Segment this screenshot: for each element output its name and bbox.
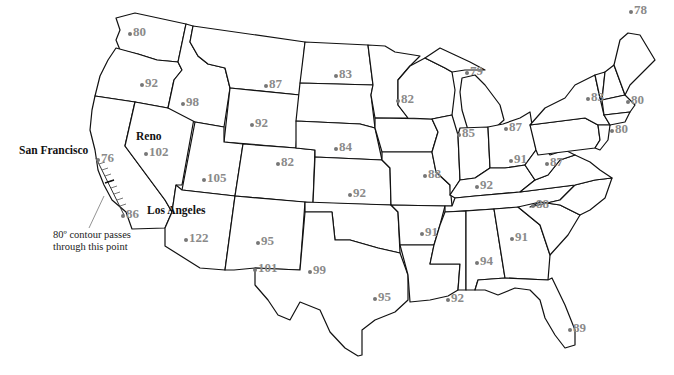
temperature-label-michigan: 87 — [504, 120, 522, 133]
location-dot-icon — [465, 71, 469, 75]
location-dot-icon — [264, 84, 268, 88]
location-dot-icon — [510, 237, 514, 241]
temperature-value: 79 — [470, 63, 483, 78]
temperature-label-san-francisco: 76 — [96, 151, 114, 164]
temperature-value: 82 — [281, 154, 294, 169]
state-colorado — [235, 144, 315, 203]
temperature-value: 82 — [401, 91, 414, 106]
location-dot-icon — [626, 100, 630, 104]
temperature-label-idaho: 98 — [181, 95, 199, 108]
state-iowa — [375, 118, 438, 152]
location-dot-icon — [250, 123, 254, 127]
temperature-value: 91 — [514, 151, 527, 166]
location-dot-icon — [610, 129, 614, 133]
temperature-label-texas: 99 — [308, 263, 326, 276]
state-florida — [475, 278, 575, 348]
temperature-value: 80 — [615, 121, 628, 136]
temperature-value: 92 — [480, 177, 493, 192]
temperature-label-michigan-upper: 79 — [465, 64, 483, 77]
temperature-value: 92 — [451, 290, 464, 305]
location-dot-icon — [396, 99, 400, 103]
temperature-label-north-dakota: 83 — [334, 67, 352, 80]
location-dot-icon — [629, 10, 633, 14]
temperature-value: 88 — [428, 166, 441, 181]
location-dot-icon — [140, 83, 144, 87]
temperature-value: 80 — [631, 92, 644, 107]
temperature-label-nebraska: 84 — [334, 140, 352, 153]
temperature-value: 85 — [462, 125, 475, 140]
city-label-los-angeles: Los Angeles — [147, 205, 205, 217]
temperature-label-new-orleans: 92 — [446, 291, 464, 304]
location-dot-icon — [253, 268, 257, 272]
annotation-line-1: 80º contour passes — [53, 229, 131, 241]
location-dot-icon — [334, 147, 338, 151]
state-michigan-lower — [460, 75, 504, 130]
location-dot-icon — [128, 32, 132, 36]
annotation-line-2: through this point — [53, 241, 131, 253]
temperature-value: 88 — [536, 196, 549, 211]
temperature-label-massachusetts: 80 — [626, 93, 644, 106]
location-dot-icon — [144, 152, 148, 156]
temperature-label-washington: 80 — [128, 25, 146, 38]
temperature-value: 95 — [261, 233, 274, 248]
temperature-value: 86 — [126, 206, 139, 221]
temperature-label-alabama: 94 — [475, 254, 493, 267]
temperature-value: 87 — [550, 154, 563, 169]
temperature-label-kentucky: 92 — [475, 178, 493, 191]
temperature-value: 105 — [207, 170, 227, 185]
location-dot-icon — [373, 297, 377, 301]
temperature-label-new-york-city: 80 — [610, 122, 628, 135]
temperature-value: 80 — [133, 24, 146, 39]
location-dot-icon — [509, 159, 513, 163]
city-label-san-francisco: San Francisco — [19, 145, 88, 157]
temperature-value: 101 — [258, 260, 278, 275]
temperature-label-new-york: 83 — [586, 90, 604, 103]
temperature-label-houston: 95 — [373, 290, 391, 303]
us-map — [0, 0, 674, 375]
location-dot-icon — [121, 214, 125, 218]
temperature-label-ohio: 91 — [509, 152, 527, 165]
temperature-label-west-virginia: 87 — [545, 155, 563, 168]
temperature-value: 98 — [186, 94, 199, 109]
temperature-label-minnesota: 82 — [396, 92, 414, 105]
city-label-reno: Reno — [136, 131, 162, 143]
temperature-label-reno: 102 — [144, 145, 169, 158]
location-dot-icon — [545, 162, 549, 166]
temperature-value: 91 — [515, 229, 528, 244]
temperature-label-tennessee: 88 — [531, 197, 549, 210]
contour-annotation: 80º contour passes through this point — [53, 229, 131, 253]
temperature-label-los-angeles: 86 — [121, 207, 139, 220]
location-dot-icon — [531, 204, 535, 208]
temperature-value: 99 — [313, 262, 326, 277]
location-dot-icon — [423, 174, 427, 178]
location-dot-icon — [457, 133, 461, 137]
temperature-label-wyoming: 92 — [250, 116, 268, 129]
temperature-value: 83 — [591, 89, 604, 104]
temperature-value: 92 — [145, 75, 158, 90]
location-dot-icon — [276, 162, 280, 166]
location-dot-icon — [475, 261, 479, 265]
temperature-label-florida: 89 — [568, 321, 586, 334]
temperature-label-arizona: 122 — [184, 231, 209, 244]
location-dot-icon — [96, 158, 100, 162]
temperature-label-missouri: 88 — [423, 167, 441, 180]
temperature-label-oregon: 92 — [140, 76, 158, 89]
annotation-leader-line — [89, 196, 104, 228]
temperature-value: 76 — [101, 150, 114, 165]
temperature-value: 92 — [353, 185, 366, 200]
location-dot-icon — [184, 238, 188, 242]
temperature-value: 84 — [339, 139, 352, 154]
temperature-label-el-paso: 101 — [253, 261, 278, 274]
location-dot-icon — [504, 127, 508, 131]
temperature-label-maine: 78 — [629, 3, 647, 16]
location-dot-icon — [202, 178, 206, 182]
temperature-value: 87 — [269, 76, 282, 91]
location-dot-icon — [446, 298, 450, 302]
temperature-label-arkansas: 91 — [420, 225, 438, 238]
temperature-value: 91 — [425, 224, 438, 239]
location-dot-icon — [348, 193, 352, 197]
temperature-value: 94 — [480, 253, 493, 268]
temperature-label-georgia: 91 — [510, 230, 528, 243]
temperature-label-illinois: 85 — [457, 126, 475, 139]
temperature-value: 102 — [149, 144, 169, 159]
